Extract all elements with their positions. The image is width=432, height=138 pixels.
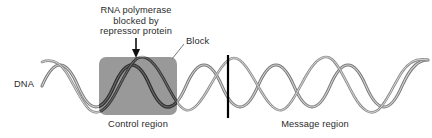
block-label: Block bbox=[186, 36, 209, 47]
callout-title-line-3: repressor protein bbox=[100, 26, 172, 37]
block-leader-line bbox=[172, 44, 184, 59]
callout-title-line-1: RNA polymerase bbox=[100, 5, 172, 16]
dna-label: DNA bbox=[14, 79, 34, 90]
repressor-arrow-icon bbox=[132, 38, 140, 58]
callout-title: RNA polymerase blocked by repressor prot… bbox=[100, 5, 172, 37]
dna-repressor-figure: RNA polymerase blocked by repressor prot… bbox=[0, 0, 432, 138]
callout-title-line-2: blocked by bbox=[100, 16, 172, 27]
message-region-label: Message region bbox=[281, 119, 349, 130]
diagram-canvas bbox=[0, 0, 432, 138]
control-region-label: Control region bbox=[108, 119, 168, 130]
